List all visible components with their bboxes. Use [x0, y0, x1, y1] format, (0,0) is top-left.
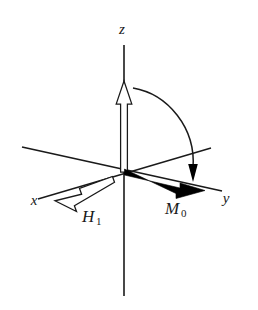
- m0-label: M: [164, 199, 180, 218]
- figure-background: [0, 0, 258, 310]
- nmr-vector-diagram: z x y M 0 H 1: [0, 0, 258, 310]
- x-axis-label: x: [30, 192, 38, 208]
- h1-label: H: [81, 207, 96, 226]
- y-axis-label: y: [221, 190, 230, 206]
- h1-label-subscript: 1: [96, 215, 102, 227]
- z-axis-label: z: [118, 21, 125, 37]
- m0-label-subscript: 0: [181, 207, 187, 219]
